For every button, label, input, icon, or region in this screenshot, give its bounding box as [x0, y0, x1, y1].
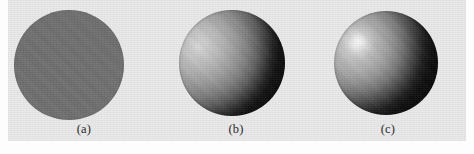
figure-plate: (a) (b) (c): [8, 0, 466, 141]
panel-b: (b): [160, 0, 312, 141]
panel-c-label: (c): [312, 122, 464, 137]
sphere-diffuse-icon: [179, 10, 285, 116]
figure-container: (a) (b) (c): [0, 0, 474, 154]
panel-c: (c): [312, 0, 464, 141]
sphere-specular-icon: [334, 11, 438, 115]
panel-a-label: (a): [8, 122, 160, 137]
sphere-flat-icon: [14, 10, 124, 120]
panel-b-label: (b): [160, 122, 312, 137]
panel-a: (a): [8, 0, 160, 141]
